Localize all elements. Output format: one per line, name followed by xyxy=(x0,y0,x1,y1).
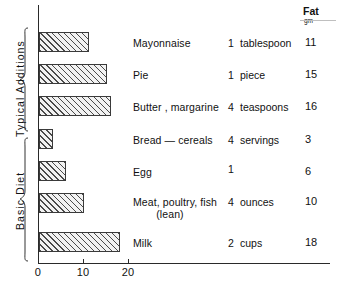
x-axis-line xyxy=(38,263,330,264)
row-qty-mayonnaise: 1 xyxy=(228,37,234,49)
row-fat-meat-poultry-fish: 10 xyxy=(305,195,317,207)
group-label-typical-additions: Typical Additions xyxy=(14,40,26,137)
x-tick-10 xyxy=(83,259,84,264)
x-tick-label-0: 0 xyxy=(35,266,41,278)
row-unit-pie: piece xyxy=(240,69,265,81)
fat-header-label: Fat xyxy=(303,5,319,17)
row-fat-pie: 15 xyxy=(305,68,317,80)
bar-meat-poultry-fish xyxy=(39,193,84,213)
row-fat-mayonnaise: 11 xyxy=(305,36,316,48)
row-unit-milk: cups xyxy=(240,237,262,249)
row-label-butter-margarine: Butter , margarine xyxy=(133,101,219,113)
row-qty-milk: 2 xyxy=(228,237,234,249)
row-qty-pie: 1 xyxy=(228,69,234,81)
row-label-mayonnaise: Mayonnaise xyxy=(133,37,191,49)
row-fat-bread-cereals: 3 xyxy=(305,133,311,145)
row-label-meat-poultry-fish: Meat, poultry, fish (lean) xyxy=(133,196,217,220)
x-tick-label-20: 20 xyxy=(122,266,135,278)
row-unit-mayonnaise: tablespoon xyxy=(240,37,291,49)
row-qty-egg: 1 xyxy=(228,163,234,175)
row-label-milk: Milk xyxy=(133,237,152,249)
fat-content-bar-chart: Fat gm 0 10 20 Typical Additions Basic D… xyxy=(0,0,339,285)
fat-column-header: Fat gm xyxy=(303,6,319,24)
row-unit-bread-cereals: servings xyxy=(240,134,279,146)
row-label-egg: Egg xyxy=(133,166,152,178)
bar-egg xyxy=(39,161,66,181)
x-tick-label-10: 10 xyxy=(77,266,90,278)
bar-butter-margarine xyxy=(39,96,111,116)
row-label-bread-cereals: Bread — cereals xyxy=(133,134,213,146)
row-fat-milk: 18 xyxy=(305,236,317,248)
row-fat-egg: 6 xyxy=(305,165,311,177)
row-label-pie: Pie xyxy=(133,69,148,81)
row-fat-butter-margarine: 16 xyxy=(305,100,317,112)
row-qty-meat-poultry-fish: 4 xyxy=(228,196,234,208)
bar-bread-cereals xyxy=(39,129,53,149)
row-qty-bread-cereals: 4 xyxy=(228,134,234,146)
bar-milk xyxy=(39,232,120,252)
group-label-basic-diet: Basic Diet xyxy=(14,172,26,230)
row-label-meat-line2: (lean) xyxy=(133,208,217,220)
x-tick-0 xyxy=(38,259,39,264)
row-unit-butter-margarine: teaspoons xyxy=(240,101,288,113)
row-unit-meat-poultry-fish: ounces xyxy=(240,196,274,208)
row-qty-butter-margarine: 4 xyxy=(228,101,234,113)
bar-mayonnaise xyxy=(39,32,89,52)
row-label-meat-line1: Meat, poultry, fish xyxy=(133,196,217,208)
header-rule xyxy=(300,20,336,21)
bar-pie xyxy=(39,64,107,84)
x-tick-20 xyxy=(128,259,129,264)
